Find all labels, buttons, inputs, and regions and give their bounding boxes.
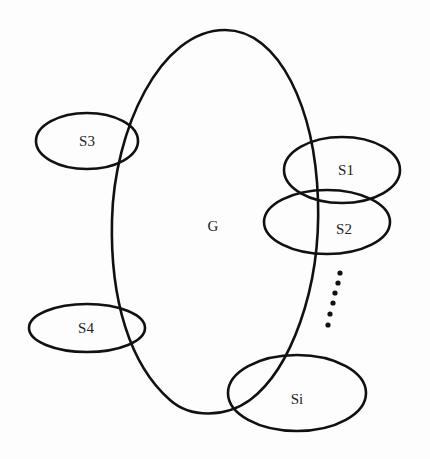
label-s4: S4 <box>78 320 94 336</box>
label-g: G <box>208 218 219 234</box>
label-s2: S2 <box>336 221 352 237</box>
label-si: Si <box>291 391 304 407</box>
diagram-canvas: G S3 S1 S2 S4 Si <box>0 0 430 459</box>
ellipsis-dots <box>325 270 342 327</box>
label-s3: S3 <box>79 133 95 149</box>
label-s1: S1 <box>338 162 354 178</box>
set-diagram: G S3 S1 S2 S4 Si <box>0 0 430 459</box>
set-s2-outline <box>264 190 390 254</box>
